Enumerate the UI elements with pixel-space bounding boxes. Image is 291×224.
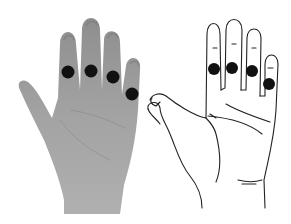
drawing-hand: [148, 20, 278, 209]
marker-dot-ring: [246, 65, 258, 77]
marker-dot-index: [62, 66, 75, 79]
photo-hand: [19, 18, 140, 214]
marker-dot-ring: [107, 71, 120, 84]
marker-dot-index: [208, 63, 220, 75]
marker-dot-middle: [226, 62, 238, 74]
marker-dot-little: [263, 78, 275, 90]
marker-dot-little: [126, 88, 139, 101]
hand-figure: [0, 0, 291, 224]
marker-dot-middle: [85, 65, 98, 78]
